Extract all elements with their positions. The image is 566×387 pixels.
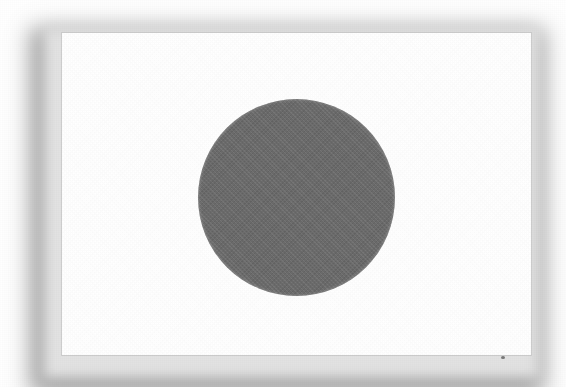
flag-of-japan [62, 33, 531, 355]
sun-disc-rim [198, 99, 395, 296]
hinomaru-sun-disc-icon [198, 99, 395, 296]
scan-speck [501, 356, 505, 359]
figure-canvas: Flag of Japan: a white rectangular field… [0, 0, 566, 387]
sun-disc-texture [198, 99, 395, 296]
